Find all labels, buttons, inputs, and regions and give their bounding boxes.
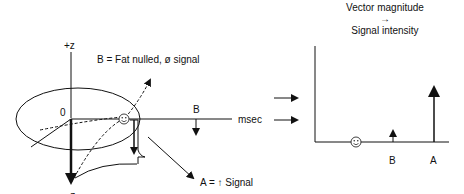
a-label-right: A (430, 155, 437, 166)
title-line2: Signal intensity (315, 25, 455, 36)
title-arrow: → (315, 13, 455, 24)
smiley-icon-right (351, 137, 361, 147)
x-axis-diagonal (31, 119, 71, 147)
title-line1: Vector magnitude (315, 2, 455, 13)
b-label-right: B (389, 155, 396, 166)
a-description: A = ↑ Signal (200, 177, 253, 188)
arrow-to-a-label (148, 137, 193, 178)
recovery-curve-dashed (74, 80, 150, 178)
b-description: B = Fat nulled, ø signal (97, 54, 200, 65)
flip-curve (75, 164, 137, 178)
bracket (130, 120, 145, 164)
msec-label: msec (238, 114, 262, 125)
plus-z-label: +z (64, 40, 75, 51)
smiley-icon (119, 114, 129, 124)
b-label-left: B (193, 104, 200, 115)
origin-label: 0 (60, 107, 66, 118)
minus-z-label: -z (67, 190, 75, 194)
